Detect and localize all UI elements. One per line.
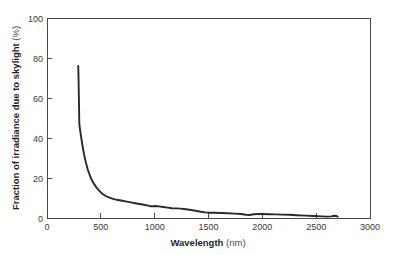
y-tick-label-80: 80 bbox=[33, 54, 43, 64]
x-tick-label-2500: 2500 bbox=[306, 222, 326, 232]
x-axis-title: Wavelength (nm) bbox=[170, 237, 245, 248]
x-tick-label-1500: 1500 bbox=[198, 222, 218, 232]
chart-figure: 0 20 40 60 80 100 0 500 1000 1500 2000 2… bbox=[0, 0, 397, 255]
x-tick-label-3000: 3000 bbox=[360, 222, 380, 232]
y-tick-label-60: 60 bbox=[33, 94, 43, 104]
svg-text:Wavelength (nm): Wavelength (nm) bbox=[170, 237, 245, 248]
y-axis-title-unit: (%) bbox=[10, 26, 21, 41]
x-tick-label-1000: 1000 bbox=[145, 222, 165, 232]
y-axis-title-text: Fraction of irradiance due to skylight bbox=[10, 42, 21, 210]
x-axis-title-text: Wavelength bbox=[170, 237, 223, 248]
y-tick-label-100: 100 bbox=[28, 14, 43, 24]
y-tick-label-0: 0 bbox=[38, 214, 43, 224]
y-axis-title: Fraction of irradiance due to skylight (… bbox=[10, 26, 21, 210]
x-axis-title-unit: (nm) bbox=[226, 237, 246, 248]
x-tick-label-0: 0 bbox=[44, 222, 49, 232]
skylight-irradiance-chart: 0 20 40 60 80 100 0 500 1000 1500 2000 2… bbox=[0, 0, 397, 255]
x-tick-label-2000: 2000 bbox=[252, 222, 272, 232]
y-tick-label-20: 20 bbox=[33, 174, 43, 184]
svg-text:Fraction of irradiance due to: Fraction of irradiance due to skylight (… bbox=[10, 26, 21, 210]
x-tick-label-500: 500 bbox=[93, 222, 108, 232]
y-tick-label-40: 40 bbox=[33, 134, 43, 144]
